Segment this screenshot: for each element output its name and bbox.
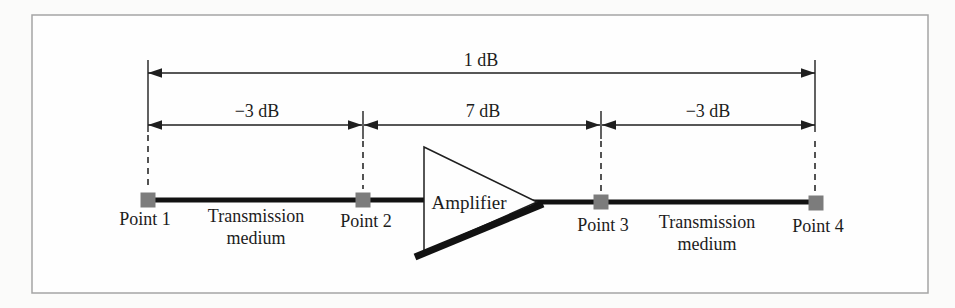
transmission-medium-right-line2: medium (678, 234, 737, 254)
point3-label: Point 3 (577, 215, 629, 236)
amplifier-label: Amplifier (432, 192, 507, 213)
transmission-medium-left-line1: Transmission (208, 206, 304, 226)
point4-label: Point 4 (792, 216, 844, 237)
segment1-gain-label: −3 dB (235, 101, 280, 122)
figure-canvas: 1 dB −3 dB 7 dB −3 dB Point 1 Point 2 Po… (0, 0, 955, 308)
point1-label: Point 1 (119, 209, 171, 230)
segment3-gain-label: −3 dB (686, 101, 731, 122)
diagram-graphics (0, 0, 955, 308)
point1-marker (141, 193, 156, 208)
transmission-medium-right-line1: Transmission (659, 212, 755, 232)
transmission-medium-left-line2: medium (227, 228, 286, 248)
point2-marker (356, 193, 371, 208)
point4-marker (809, 196, 824, 211)
point3-marker (594, 195, 609, 210)
transmission-medium-right-label: Transmission medium (659, 211, 755, 255)
total-gain-label: 1 dB (464, 50, 499, 71)
segment2-gain-label: 7 dB (466, 101, 501, 122)
transmission-medium-left-label: Transmission medium (208, 205, 304, 249)
point2-label: Point 2 (340, 211, 392, 232)
